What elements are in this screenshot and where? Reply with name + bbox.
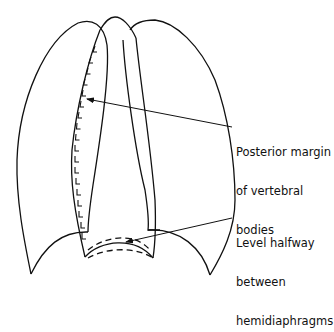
right-lung-outline [130, 20, 235, 275]
mediastinum-apex [100, 17, 136, 38]
level-halfway-arrow [126, 218, 232, 242]
right-spine-border [136, 38, 155, 258]
left-hemidiaphragm [31, 232, 88, 274]
left-spine-border [72, 30, 100, 257]
lower-dashed-arc [88, 250, 153, 258]
level-halfway-label: Level halfway between hemidiaphragms [236, 211, 333, 332]
right-hemidiaphragm [148, 230, 210, 275]
left-lung-outline [17, 21, 108, 274]
posterior-margin-arrow [87, 99, 232, 127]
